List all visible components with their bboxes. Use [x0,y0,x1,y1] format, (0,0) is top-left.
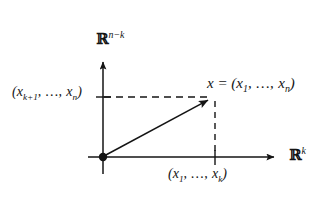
coord-ellipsis: , …, [38,84,66,99]
math-diagram-figure: ℝn−k ℝk (xk+1, …, xn) x = (x1, …, xn) (x… [0,0,331,218]
coord-ellipsis: , …, [184,166,212,181]
origin-point-dot [99,153,107,161]
coord-ellipsis: , …, [248,75,278,91]
position-vector-arrow [104,100,208,156]
vertical-axis-label-base: ℝ [96,30,108,48]
vertical-axis-label: ℝn−k [96,32,124,47]
diagram-canvas [0,0,331,218]
paren-close: ) [290,75,295,91]
coord-first-symbol: x [236,75,243,91]
vertical-axis-label-exponent: n−k [108,29,124,40]
coord-last-symbol: x [278,75,285,91]
point-x-label: x = (x1, …, xn) [207,76,295,91]
equals-sign: = [217,75,227,91]
point-name: x [207,75,214,91]
horizontal-projection-coordinates-label: (x1, …, xk) [168,167,227,181]
coord-first-subscript: k+1 [23,92,38,102]
vertical-projection-coordinates-label: (xk+1, …, xn) [12,85,82,99]
horizontal-axis-label-base: ℝ [289,146,301,164]
horizontal-axis-label: ℝk [289,148,306,163]
paren-close: ) [77,84,82,99]
horizontal-axis-label-exponent: k [301,145,305,156]
paren-close: ) [222,166,227,181]
